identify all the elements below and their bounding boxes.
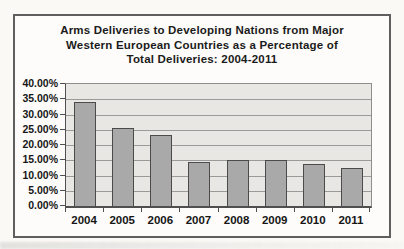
y-axis-tick-15 [60,159,65,160]
y-axis-label-20.00%: 20.00% [12,138,58,150]
y-axis-tick-25 [60,129,65,130]
x-axis-tick-2 [141,208,142,212]
x-axis-label-2009: 2009 [256,214,294,226]
plot-area [65,83,372,208]
y-axis-tick-30 [60,114,65,115]
y-axis-label-40.00%: 40.00% [12,77,58,89]
x-axis-tick-5 [256,208,257,212]
y-axis-tick-10 [60,175,65,176]
y-axis-label-25.00%: 25.00% [12,123,58,135]
bar-2005 [112,128,134,206]
y-axis-tick-35 [60,98,65,99]
x-axis-label-2005: 2005 [103,214,141,226]
scan-shadow [0,242,404,249]
x-axis-tick-7 [332,208,333,212]
chart-title: Arms Deliveries to Developing Nations fr… [15,23,389,67]
x-axis-label-2004: 2004 [65,214,103,226]
x-axis-tick-3 [179,208,180,212]
y-axis-tick-0 [60,205,65,206]
bar-2011 [341,168,363,206]
chart-title-line-1: Arms Deliveries to Developing Nations fr… [15,23,389,38]
chart-frame: Arms Deliveries to Developing Nations fr… [13,14,391,238]
x-axis-tick-8 [369,208,370,212]
gridline-35 [66,99,371,100]
page: Arms Deliveries to Developing Nations fr… [0,0,404,249]
y-axis-label-15.00%: 15.00% [12,153,58,165]
bar-2008 [227,160,249,206]
x-axis-tick-0 [65,208,66,212]
x-axis-tick-1 [103,208,104,212]
x-axis-label-2008: 2008 [218,214,256,226]
x-axis-label-2010: 2010 [294,214,332,226]
x-axis-label-2011: 2011 [332,214,370,226]
y-axis-tick-20 [60,144,65,145]
y-axis-label-5.00%: 5.00% [12,184,58,196]
y-axis-label-10.00%: 10.00% [12,169,58,181]
y-axis-label-0.00%: 0.00% [12,199,58,211]
x-axis-label-2006: 2006 [141,214,179,226]
y-axis-label-35.00%: 35.00% [12,92,58,104]
bar-2010 [303,164,325,206]
y-axis-tick-5 [60,190,65,191]
x-axis-tick-4 [218,208,219,212]
bar-2007 [188,162,210,206]
x-axis-tick-6 [294,208,295,212]
bar-2009 [265,160,287,206]
x-axis-label-2007: 2007 [179,214,217,226]
chart-title-line-2: Western European Countries as a Percenta… [15,38,389,53]
gridline-30 [66,115,371,116]
chart-title-line-3: Total Deliveries: 2004-2011 [15,52,389,67]
y-axis-tick-40 [60,83,65,84]
y-axis-label-30.00%: 30.00% [12,108,58,120]
bar-2006 [150,135,172,206]
bar-2004 [74,102,96,206]
